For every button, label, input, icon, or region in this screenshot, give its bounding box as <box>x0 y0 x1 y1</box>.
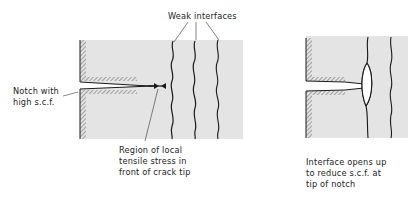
weak-interfaces-label: Weak interfaces <box>168 11 237 22</box>
notch-label-line-2: high s.c.f. <box>13 97 55 108</box>
interface-opens-label-line-2: to reduce s.c.f. at <box>306 168 381 179</box>
interface-opens-label-line-3: tip of notch <box>306 179 355 190</box>
left-specimen <box>63 22 243 141</box>
region-label-line-2: tensile stress in <box>119 156 187 167</box>
region-label-line-3: front of crack tip <box>119 167 191 178</box>
interface-opens-label-line-1: Interface opens up <box>306 157 387 168</box>
region-label-line-1: Region of local <box>119 145 182 156</box>
notch-label-line-1: Notch with <box>13 86 59 97</box>
right-specimen <box>306 36 408 138</box>
